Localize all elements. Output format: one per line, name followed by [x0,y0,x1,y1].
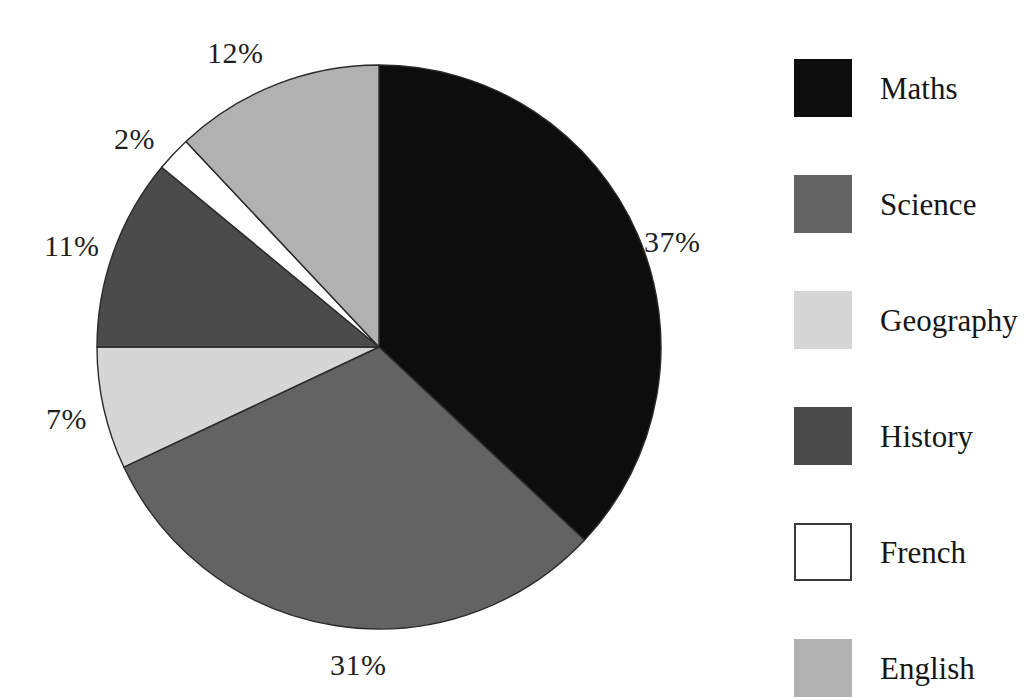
legend-item-geography[interactable]: Geography [794,288,1033,352]
legend-swatch-icon [794,407,852,465]
legend-item-english[interactable]: English [794,636,1033,700]
pie-chart: 37%31%7%11%2%12% MathsScienceGeographyHi… [0,0,1033,700]
slice-value-label-history: 11% [44,231,99,261]
legend: MathsScienceGeographyHistoryFrenchEnglis… [794,56,1033,646]
legend-item-label: Science [880,189,976,220]
pie-plot-area: 37%31%7%11%2%12% [0,0,760,700]
slice-value-label-english: 12% [207,38,264,68]
legend-item-label: English [880,653,975,684]
legend-swatch-icon [794,291,852,349]
legend-item-label: French [880,537,966,568]
legend-swatch-icon [794,523,852,581]
legend-item-label: Maths [880,73,958,104]
slice-value-label-french: 2% [114,124,155,154]
legend-item-french[interactable]: French [794,520,1033,584]
slice-value-label-science: 31% [330,650,387,680]
legend-item-history[interactable]: History [794,404,1033,468]
legend-swatch-icon [794,59,852,117]
slice-value-label-maths: 37% [644,227,701,257]
legend-item-label: History [880,421,973,452]
legend-item-label: Geography [880,305,1018,336]
legend-swatch-icon [794,639,852,697]
pie-svg [0,0,760,700]
legend-swatch-icon [794,175,852,233]
legend-item-maths[interactable]: Maths [794,56,1033,120]
legend-item-science[interactable]: Science [794,172,1033,236]
slice-value-label-geography: 7% [46,404,87,434]
